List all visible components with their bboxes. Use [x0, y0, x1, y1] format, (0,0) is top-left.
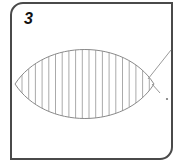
pointer-line-upper	[148, 50, 171, 79]
point-marker	[166, 98, 168, 100]
lens-figure	[0, 0, 175, 168]
vertical-hatching	[22, 40, 149, 130]
pointer-line-lower	[152, 84, 160, 93]
